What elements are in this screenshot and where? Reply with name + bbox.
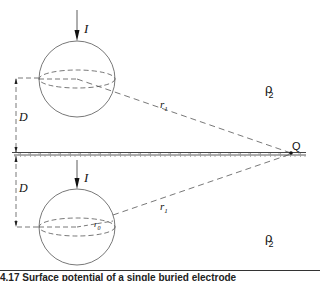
current-label-bottom: I <box>83 170 89 185</box>
radius-label: r0 <box>94 219 101 231</box>
depth-label-bottom: D <box>18 181 28 195</box>
electrode-image-diagram: I r1 D D Q I r0 r1 <box>0 0 320 281</box>
distance-label-bottom: r1 <box>160 200 168 215</box>
observation-point-label: Q <box>292 140 301 152</box>
distance-label-top: r1 <box>160 98 168 113</box>
depth-label-top: D <box>18 110 28 124</box>
figure-caption: 4.17 Surface potential of a single burie… <box>0 272 320 281</box>
resistivity-label-bottom: ρ2 <box>265 230 273 249</box>
current-arrow-top <box>75 10 80 41</box>
image-sphere <box>39 189 115 265</box>
distance-line-top <box>77 79 291 153</box>
resistivity-label-top: ρ2 <box>265 81 273 100</box>
distance-line-bottom <box>113 154 291 215</box>
current-label-top: I <box>83 21 89 36</box>
ground-surface <box>12 152 306 157</box>
current-arrow-bottom <box>75 160 80 189</box>
